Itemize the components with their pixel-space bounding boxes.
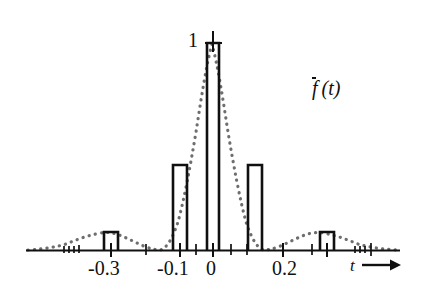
figure-canvas: 1 -0.3 -0.1 0 0.2 t f (t) [0,0,440,292]
bar-0.1 [248,165,262,251]
x-tick-label-0.2: 0.2 [272,258,297,278]
overline-bar [312,77,316,79]
f-letter: f [312,77,318,99]
x-axis-variable-label: t [350,257,355,274]
plot-svg [0,0,440,292]
x-tick-label--0.1: -0.1 [157,258,189,278]
x-tick-label--0.3: -0.3 [88,258,120,278]
f-bar-glyph: f [312,78,318,98]
x-tick-label-0: 0 [206,258,216,278]
function-label: f (t) [312,78,340,98]
axis-arrow-icon [362,260,401,271]
envelope-curve [28,44,396,250]
peak-value-label: 1 [188,30,198,50]
of-t-glyph: (t) [318,77,341,99]
bar--0.1 [173,165,187,251]
pulse-bars [104,43,334,251]
